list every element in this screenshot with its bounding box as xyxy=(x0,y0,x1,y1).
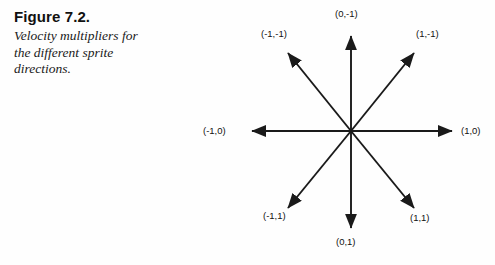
arrow-up-left xyxy=(288,53,351,131)
figure-description: Velocity multipliers for the different s… xyxy=(14,28,164,78)
direction-star-diagram: (0,-1) (1,-1) (1,0) (1,1) (0,1) (-1,1) (… xyxy=(180,0,495,265)
figure-title: Figure 7.2. xyxy=(14,8,164,25)
direction-label-left: (-1,0) xyxy=(203,125,226,136)
direction-label-right: (1,0) xyxy=(461,125,481,136)
arrow-down-left xyxy=(288,131,351,208)
direction-label-down-right: (1,1) xyxy=(410,212,430,223)
direction-star-svg xyxy=(180,0,495,265)
direction-label-down-left: (-1,1) xyxy=(263,210,286,221)
arrow-up-right xyxy=(351,53,414,131)
figure-caption: Figure 7.2. Velocity multipliers for the… xyxy=(14,8,164,78)
arrow-down-right xyxy=(351,131,414,208)
figure-description-line: the different sprite xyxy=(14,45,164,62)
figure-description-line: directions. xyxy=(14,61,164,78)
figure-description-line: Velocity multipliers for xyxy=(14,28,164,45)
direction-label-up: (0,-1) xyxy=(335,8,358,19)
direction-label-up-left: (-1,-1) xyxy=(261,28,287,39)
figure-page: Figure 7.2. Velocity multipliers for the… xyxy=(0,0,495,265)
direction-label-up-right: (1,-1) xyxy=(416,28,439,39)
direction-label-down: (0,1) xyxy=(336,236,356,247)
